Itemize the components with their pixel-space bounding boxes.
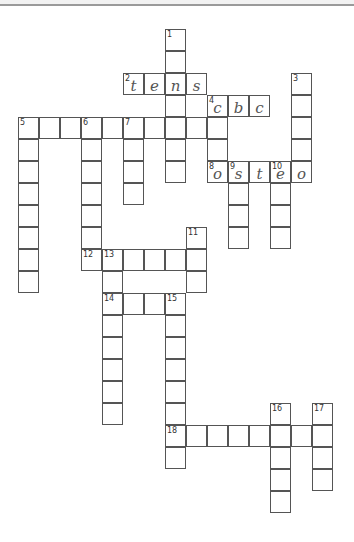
crossword-cell[interactable] bbox=[186, 117, 207, 139]
crossword-cell[interactable] bbox=[18, 227, 39, 249]
crossword-cell[interactable] bbox=[102, 117, 123, 139]
crossword-cell[interactable] bbox=[18, 183, 39, 205]
crossword-cell[interactable] bbox=[123, 183, 144, 205]
crossword-cell[interactable] bbox=[270, 425, 291, 447]
crossword-cell[interactable]: 3 bbox=[291, 73, 312, 95]
crossword-cell[interactable] bbox=[207, 139, 228, 161]
crossword-cell[interactable]: o bbox=[291, 161, 312, 183]
crossword-cell[interactable] bbox=[18, 205, 39, 227]
crossword-cell[interactable]: b bbox=[228, 95, 249, 117]
clue-number: 16 bbox=[272, 404, 282, 413]
crossword-cell[interactable] bbox=[291, 139, 312, 161]
crossword-cell[interactable] bbox=[270, 205, 291, 227]
clue-number: 14 bbox=[104, 294, 114, 303]
crossword-cell[interactable] bbox=[312, 447, 333, 469]
crossword-cell[interactable] bbox=[102, 359, 123, 381]
crossword-cell[interactable]: 12 bbox=[81, 249, 102, 271]
crossword-cell[interactable] bbox=[123, 139, 144, 161]
crossword-cell[interactable]: 4c bbox=[207, 95, 228, 117]
crossword-cell[interactable]: 6 bbox=[81, 117, 102, 139]
crossword-cell[interactable] bbox=[270, 183, 291, 205]
crossword-cell[interactable] bbox=[81, 139, 102, 161]
crossword-cell[interactable] bbox=[186, 271, 207, 293]
cell-letter: s bbox=[187, 77, 206, 95]
crossword-cell[interactable]: 5 bbox=[18, 117, 39, 139]
crossword-cell[interactable] bbox=[165, 403, 186, 425]
crossword-cell[interactable]: 17 bbox=[312, 403, 333, 425]
crossword-cell[interactable]: 10e bbox=[270, 161, 291, 183]
crossword-cell[interactable] bbox=[228, 425, 249, 447]
crossword-cell[interactable]: 11 bbox=[186, 227, 207, 249]
crossword-cell[interactable] bbox=[291, 95, 312, 117]
crossword-cell[interactable] bbox=[102, 337, 123, 359]
crossword-cell[interactable] bbox=[312, 469, 333, 491]
cell-letter: o bbox=[208, 165, 227, 183]
crossword-cell[interactable] bbox=[18, 161, 39, 183]
crossword-cell[interactable] bbox=[81, 183, 102, 205]
crossword-cell[interactable] bbox=[228, 205, 249, 227]
crossword-cell[interactable] bbox=[81, 227, 102, 249]
crossword-cell[interactable] bbox=[291, 425, 312, 447]
crossword-cell[interactable]: e bbox=[144, 73, 165, 95]
crossword-cell[interactable] bbox=[165, 95, 186, 117]
crossword-cell[interactable]: 13 bbox=[102, 249, 123, 271]
crossword-cell[interactable] bbox=[18, 249, 39, 271]
crossword-cell[interactable] bbox=[207, 117, 228, 139]
crossword-cell[interactable] bbox=[165, 161, 186, 183]
crossword-cell[interactable]: 18 bbox=[165, 425, 186, 447]
crossword-cell[interactable] bbox=[123, 293, 144, 315]
crossword-cell[interactable] bbox=[186, 249, 207, 271]
crossword-cell[interactable]: 16 bbox=[270, 403, 291, 425]
crossword-cell[interactable]: 7 bbox=[123, 117, 144, 139]
crossword-cell[interactable] bbox=[81, 205, 102, 227]
crossword-cell[interactable]: 9s bbox=[228, 161, 249, 183]
crossword-cell[interactable]: 2t bbox=[123, 73, 144, 95]
crossword-cell[interactable] bbox=[228, 183, 249, 205]
crossword-cell[interactable] bbox=[165, 139, 186, 161]
crossword-cell[interactable] bbox=[18, 271, 39, 293]
crossword-cell[interactable] bbox=[165, 359, 186, 381]
crossword-cell[interactable] bbox=[165, 51, 186, 73]
cell-letter: e bbox=[271, 165, 290, 183]
crossword-cell[interactable] bbox=[270, 469, 291, 491]
crossword-cell[interactable] bbox=[123, 161, 144, 183]
crossword-cell[interactable] bbox=[102, 403, 123, 425]
crossword-cell[interactable] bbox=[312, 425, 333, 447]
crossword-cell[interactable] bbox=[165, 447, 186, 469]
crossword-cell[interactable]: 14 bbox=[102, 293, 123, 315]
crossword-cell[interactable] bbox=[165, 249, 186, 271]
crossword-cell[interactable] bbox=[270, 447, 291, 469]
crossword-cell[interactable] bbox=[144, 293, 165, 315]
crossword-cell[interactable] bbox=[102, 381, 123, 403]
crossword-cell[interactable] bbox=[144, 117, 165, 139]
crossword-cell[interactable] bbox=[165, 381, 186, 403]
crossword-cell[interactable]: 15 bbox=[165, 293, 186, 315]
crossword-cell[interactable]: s bbox=[186, 73, 207, 95]
crossword-cell[interactable] bbox=[165, 337, 186, 359]
crossword-cell[interactable] bbox=[228, 227, 249, 249]
crossword-cell[interactable] bbox=[270, 227, 291, 249]
crossword-cell[interactable] bbox=[102, 271, 123, 293]
crossword-cell[interactable] bbox=[81, 161, 102, 183]
crossword-cell[interactable]: 8o bbox=[207, 161, 228, 183]
crossword-cell[interactable] bbox=[123, 249, 144, 271]
crossword-cell[interactable] bbox=[270, 491, 291, 513]
crossword-cell[interactable] bbox=[207, 425, 228, 447]
crossword-cell[interactable] bbox=[18, 139, 39, 161]
crossword-cell[interactable] bbox=[60, 117, 81, 139]
crossword-cell[interactable] bbox=[165, 315, 186, 337]
crossword-cell[interactable] bbox=[165, 117, 186, 139]
crossword-cell[interactable] bbox=[102, 315, 123, 337]
crossword-cell[interactable] bbox=[249, 425, 270, 447]
crossword-cell[interactable]: t bbox=[249, 161, 270, 183]
clue-number: 6 bbox=[83, 118, 88, 127]
clue-number: 3 bbox=[293, 74, 298, 83]
crossword-cell[interactable]: 1 bbox=[165, 29, 186, 51]
crossword-cell[interactable]: c bbox=[249, 95, 270, 117]
crossword-cell[interactable] bbox=[144, 249, 165, 271]
crossword-cell[interactable] bbox=[291, 117, 312, 139]
crossword-cell[interactable] bbox=[39, 117, 60, 139]
crossword-cell[interactable] bbox=[186, 425, 207, 447]
crossword-cell[interactable]: n bbox=[165, 73, 186, 95]
crossword-grid: 1n2tes3o4cbc8o567129st10e11131415181617 bbox=[0, 0, 354, 542]
